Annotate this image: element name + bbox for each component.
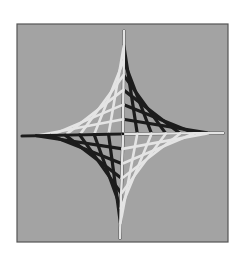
string-art-photo [0,0,242,255]
bottom-right-strand [123,133,223,134]
center-dot [122,133,125,136]
bottom-left-strand [22,134,123,136]
